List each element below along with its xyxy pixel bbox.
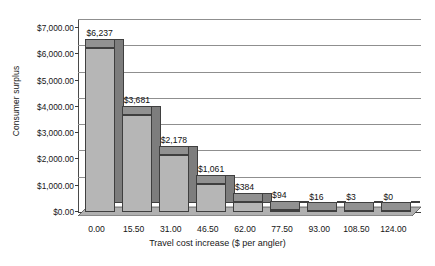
bar [85, 39, 115, 212]
x-axis-title: Travel cost increase ($ per angler) [0, 238, 435, 248]
bar-value-label: $94 [272, 190, 286, 200]
bar [270, 201, 300, 212]
x-axis-tick-label: 77.50 [262, 224, 302, 234]
y-axis-tick-mark [75, 80, 79, 81]
gridline [78, 45, 421, 46]
bar-front-face [233, 202, 263, 212]
bar-value-label: $384 [235, 182, 254, 192]
y-axis-tick-label: $4,000.00 [12, 102, 74, 112]
bar [233, 193, 263, 212]
bar-top-face [270, 201, 300, 210]
x-axis-tick-label: 108.50 [336, 224, 376, 234]
bar-top-face [159, 146, 189, 155]
bar-top-face [196, 175, 226, 184]
bar-value-label: $1,061 [198, 164, 224, 174]
bar-top-face [307, 202, 337, 211]
y-axis-tick-label: $6,000.00 [12, 49, 74, 59]
y-axis-tick-mark [75, 27, 79, 28]
x-axis-tick-label: 15.50 [114, 224, 154, 234]
bar-value-label: $3 [346, 192, 356, 202]
bar-front-face [196, 184, 226, 212]
x-axis-tick-label: 31.00 [151, 224, 191, 234]
bar-value-label: $0 [383, 192, 393, 202]
y-axis-tick-mark [75, 106, 79, 107]
bar [307, 202, 337, 213]
y-axis-tick-mark [75, 185, 79, 186]
bar-top-face [122, 106, 152, 115]
bar-value-label: $2,178 [161, 135, 187, 145]
bar-chart: Consumer surplus $7,000.00$6,000.00$5,00… [0, 0, 435, 266]
bar [381, 202, 411, 213]
bar-front-face [122, 115, 152, 212]
y-axis-tick-mark [75, 211, 79, 212]
bar-front-face [270, 210, 300, 212]
bar-top-face [381, 202, 411, 211]
y-axis-tick-label: $7,000.00 [12, 23, 74, 33]
bar-front-face [85, 48, 115, 212]
bar [122, 106, 152, 212]
y-axis-tick-label: $2,000.00 [12, 154, 74, 164]
bar [196, 175, 226, 212]
y-axis-tick-label: $0.00 [12, 207, 74, 217]
x-axis-tick-label: 62.00 [225, 224, 265, 234]
bar [159, 146, 189, 212]
bar-side-face [411, 201, 420, 203]
bar-top-face [85, 39, 115, 48]
bar-value-label: $16 [309, 192, 323, 202]
x-axis-tick-label: 93.00 [299, 224, 339, 234]
y-axis-tick-labels: $7,000.00$6,000.00$5,000.00$4,000.00$3,0… [2, 0, 74, 266]
y-axis-tick-label: $3,000.00 [12, 128, 74, 138]
bar-top-face [233, 193, 263, 202]
gridline [78, 19, 421, 20]
bar-value-label: $3,681 [124, 95, 150, 105]
y-axis-tick-label: $5,000.00 [12, 76, 74, 86]
x-axis-line [78, 212, 421, 213]
y-axis-tick-mark [75, 158, 79, 159]
bar-top-face [344, 202, 374, 211]
bar [344, 202, 374, 213]
bar-front-face [159, 155, 189, 212]
x-axis-tick-label: 0.00 [77, 224, 117, 234]
bar-value-label: $6,237 [87, 28, 113, 38]
y-axis-tick-label: $1,000.00 [12, 181, 74, 191]
x-axis-tick-label: 124.00 [373, 224, 413, 234]
y-axis-tick-mark [75, 132, 79, 133]
gridline [78, 72, 421, 73]
y-axis-tick-mark [75, 53, 79, 54]
x-axis-tick-label: 46.50 [188, 224, 228, 234]
